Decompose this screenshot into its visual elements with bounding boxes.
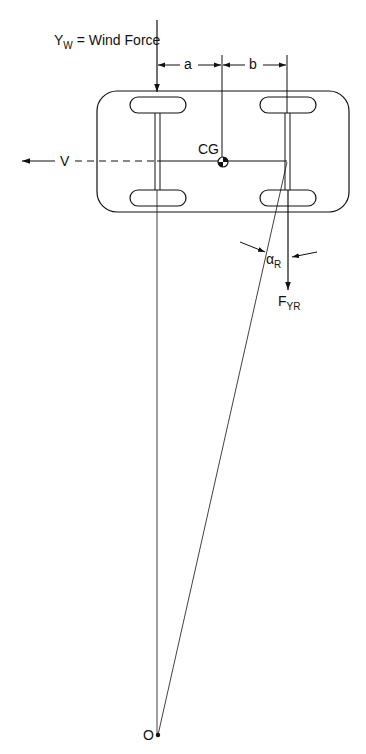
front-axle [155, 113, 160, 190]
cg-label: CG [198, 141, 219, 157]
slip-angle-arrow-left [240, 242, 265, 252]
velocity-label: V [60, 153, 70, 169]
front-right-wheel [130, 190, 186, 206]
origin-point [156, 733, 160, 737]
cg-symbol [218, 157, 228, 167]
front-left-wheel [130, 97, 186, 113]
rear-axle-to-origin-line [158, 162, 287, 735]
car-body [97, 91, 349, 212]
wind-force-label: YW = Wind Force [54, 32, 161, 51]
dimension-a-label: a [184, 56, 192, 72]
vehicle-diagram: YW = Wind Force a b V CG FYR αR O [0, 0, 366, 754]
slip-angle-arrow-right [292, 252, 317, 257]
rear-axle [285, 113, 290, 190]
dimension-b-label: b [249, 56, 257, 72]
slip-angle-label: αR [266, 251, 281, 270]
rear-force-label: FYR [278, 293, 300, 312]
origin-label: O [143, 727, 154, 743]
rear-left-wheel [260, 97, 316, 113]
